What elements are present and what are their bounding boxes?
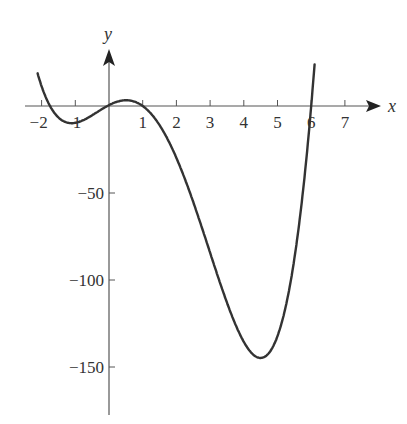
- y-tick-label: −100: [69, 271, 104, 290]
- x-tick-label: 3: [206, 113, 215, 132]
- chart: −2−11234567 −50−100−150 x y: [0, 0, 407, 424]
- x-tick-label: 5: [273, 113, 282, 132]
- x-tick-label: 1: [138, 113, 147, 132]
- y-tick-label: −150: [69, 358, 104, 377]
- function-curve: [38, 64, 315, 358]
- x-tick-label: −2: [30, 113, 48, 132]
- x-tick-label: 2: [172, 113, 181, 132]
- x-axis-label: x: [387, 96, 396, 116]
- y-tick-label: −50: [77, 184, 104, 203]
- x-ticks: −2−11234567: [30, 100, 350, 132]
- y-ticks: −50−100−150: [69, 184, 115, 377]
- y-axis-label: y: [102, 24, 112, 44]
- x-tick-label: 7: [341, 113, 350, 132]
- x-tick-label: 4: [240, 113, 249, 132]
